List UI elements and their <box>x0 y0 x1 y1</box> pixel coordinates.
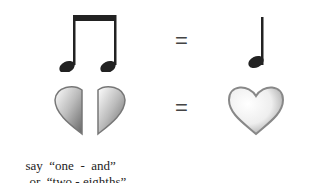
caption-line-2: or “two - eighths” <box>23 159 126 183</box>
half-hearts-icon <box>52 84 128 140</box>
beamed-eighth-notes-icon <box>55 12 125 72</box>
caption-or: or <box>30 174 41 183</box>
caption-two-eighths: “two - eighths” <box>47 174 126 183</box>
equals-sign: = <box>175 30 188 52</box>
heart-icon <box>225 82 287 137</box>
equals-sign: = <box>175 97 188 119</box>
quarter-note-icon <box>245 15 270 70</box>
